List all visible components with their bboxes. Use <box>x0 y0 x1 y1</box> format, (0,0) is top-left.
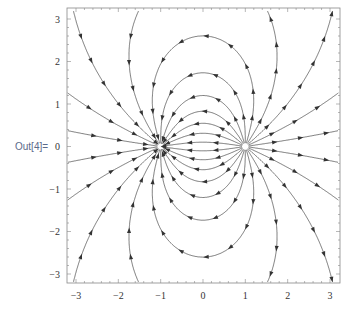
streamline <box>164 147 242 151</box>
arrowhead-icon <box>131 201 136 207</box>
plot-frame <box>67 8 340 283</box>
arrowhead-icon <box>311 227 317 234</box>
streamline <box>162 149 243 181</box>
arrowhead-icon <box>170 175 176 182</box>
streamlines <box>68 10 339 282</box>
streamline <box>247 11 277 144</box>
arrowhead-icon <box>243 63 249 70</box>
arrowhead-icon <box>159 57 165 64</box>
streamline <box>152 36 253 144</box>
y-axis-tick-labels: 3210−1−2−3 <box>49 14 60 280</box>
arrowhead-icon <box>108 119 115 125</box>
arrowhead-icon <box>187 141 193 145</box>
arrowhead-icon <box>321 251 327 258</box>
arrowhead-icon <box>186 214 193 220</box>
arrowhead-icon <box>88 229 94 236</box>
streamline <box>248 148 338 200</box>
arrowhead-icon <box>232 89 238 96</box>
arrowhead-icon <box>167 90 173 97</box>
arrowhead-icon <box>91 155 97 160</box>
arrowhead-icon <box>101 206 107 213</box>
arrowhead-icon <box>274 246 278 252</box>
arrowhead-icon <box>292 169 299 175</box>
streamline <box>129 149 159 282</box>
arrowhead-icon <box>251 199 256 205</box>
arrowhead-icon <box>203 34 209 38</box>
arrowhead-icon <box>212 215 219 221</box>
arrowhead-icon <box>88 58 94 65</box>
arrowhead-icon <box>78 33 84 40</box>
x-tick-label: 2 <box>285 290 290 301</box>
y-tick-label: 1 <box>55 99 60 110</box>
arrowhead-icon <box>189 132 195 137</box>
arrowhead-icon <box>139 110 145 117</box>
arrowhead-icon <box>189 192 196 198</box>
y-tick-label: 2 <box>55 56 60 67</box>
y-tick-label: −1 <box>49 184 60 195</box>
stream-plot: −3−2−10123 3210−1−2−3 <box>0 0 351 312</box>
arrowhead-icon <box>86 182 93 188</box>
x-tick-label: −1 <box>155 290 166 301</box>
arrowhead-icon <box>151 179 156 185</box>
arrowhead-icon <box>292 118 299 124</box>
arrowhead-icon <box>189 156 195 161</box>
arrowhead-icon <box>159 229 165 236</box>
arrowhead-icon <box>257 117 263 124</box>
arrowhead-icon <box>269 131 276 137</box>
y-tick-label: 3 <box>55 14 60 25</box>
arrowhead-icon <box>127 227 131 233</box>
arrowhead-icon <box>268 271 274 278</box>
arrowhead-icon <box>170 112 176 119</box>
arrowhead-icon <box>268 193 273 199</box>
arrowhead-icon <box>177 39 184 45</box>
streamline <box>68 148 158 200</box>
arrowhead-icon <box>314 183 321 189</box>
x-axis-tick-labels: −3−2−10123 <box>71 290 333 301</box>
arrowhead-icon <box>214 155 220 160</box>
arrowhead-icon <box>193 167 199 172</box>
arrowhead-icon <box>189 95 196 101</box>
arrowhead-icon <box>268 93 273 99</box>
arrowhead-icon <box>274 41 278 47</box>
axis-ticks <box>67 8 340 283</box>
arrowhead-icon <box>269 156 276 162</box>
arrowhead-icon <box>131 86 136 92</box>
arrowhead-icon <box>187 148 193 152</box>
arrowhead-icon <box>193 121 199 126</box>
arrowhead-icon <box>203 255 209 259</box>
x-tick-label: −2 <box>113 290 124 301</box>
x-tick-label: −3 <box>71 290 82 301</box>
arrowhead-icon <box>214 133 220 138</box>
arrowhead-icon <box>139 176 145 183</box>
streamline <box>152 149 253 257</box>
streamline <box>247 149 277 282</box>
y-tick-label: −2 <box>49 226 60 237</box>
arrowhead-icon <box>186 73 193 79</box>
streamline <box>248 93 338 145</box>
arrowhead-icon <box>243 224 249 231</box>
arrowhead-icon <box>311 59 317 66</box>
x-tick-label: 0 <box>201 290 206 301</box>
x-tick-label: 3 <box>328 290 333 301</box>
arrowhead-icon <box>297 82 303 89</box>
arrowhead-icon <box>132 156 139 162</box>
arrowhead-icon <box>78 253 84 260</box>
arrowhead-icon <box>101 81 107 88</box>
arrowhead-icon <box>212 72 219 78</box>
arrowhead-icon <box>232 115 238 122</box>
streamline <box>161 150 246 220</box>
arrowhead-icon <box>214 191 221 197</box>
arrowhead-icon <box>132 131 139 137</box>
streamline <box>129 11 159 144</box>
y-tick-label: −3 <box>49 269 60 280</box>
arrowhead-icon <box>268 16 274 23</box>
streamline <box>164 142 242 146</box>
arrowhead-icon <box>257 169 263 176</box>
arrowhead-icon <box>108 168 115 174</box>
arrowhead-icon <box>232 171 238 178</box>
streamline <box>161 73 246 143</box>
arrowhead-icon <box>177 248 184 254</box>
arrowhead-icon <box>218 125 225 131</box>
streamline <box>162 111 243 143</box>
arrowhead-icon <box>214 96 221 102</box>
